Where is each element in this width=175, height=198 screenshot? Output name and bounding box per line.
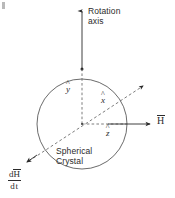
spherical-crystal-label-line1: Spherical — [56, 146, 92, 156]
figure-canvas: Rotationaxis SphericalCrystal ^y ^x ^z H… — [0, 0, 175, 198]
rotation-axis-label: Rotationaxis — [88, 6, 120, 26]
spherical-crystal-label-line2: Crystal — [56, 156, 83, 166]
z-hat-label: ^z — [106, 128, 110, 138]
rotation-axis-label-line2: axis — [88, 16, 104, 26]
vector-diagram-svg — [0, 0, 175, 198]
dH-dt-label: dHdt — [8, 168, 21, 191]
x-hat-label: ^x — [101, 95, 105, 105]
y-hat-label: ^y — [66, 84, 70, 94]
origin-point — [81, 123, 83, 125]
magnetic-field-symbol: H — [157, 114, 164, 126]
dH-dt-numerator-H: H — [14, 168, 21, 179]
rotation-axis-label-line1: Rotation — [88, 6, 120, 16]
dH-dt-denominator: dt — [8, 181, 21, 192]
magnetic-field-label: H — [157, 114, 164, 126]
dH-dt-arrow — [27, 155, 37, 162]
dH-dt-numerator: dH — [8, 168, 21, 181]
y-hat-accent: ^ — [66, 80, 70, 88]
z-hat-accent: ^ — [106, 124, 110, 132]
spherical-crystal-label: SphericalCrystal — [56, 146, 92, 166]
x-hat-accent: ^ — [101, 91, 105, 99]
